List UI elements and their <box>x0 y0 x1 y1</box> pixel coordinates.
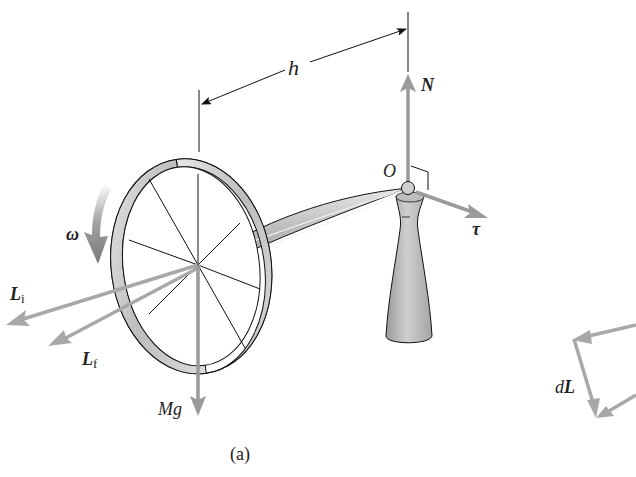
dimension-h-label: h <box>288 57 299 79</box>
l-symbol: L <box>82 349 93 369</box>
torque-vector <box>416 192 488 218</box>
pivot-o-label: O <box>383 162 396 180</box>
figure-caption: (a) <box>230 445 250 463</box>
normal-force-vector <box>400 74 416 182</box>
dl-label: dL <box>555 378 575 396</box>
pivot-point-o <box>402 182 415 195</box>
weight-label: Mg <box>158 400 182 418</box>
l-symbol: L <box>564 377 575 397</box>
mass-symbol: Mg <box>158 399 182 419</box>
l-subscript-i: i <box>21 291 25 306</box>
dl-vector-diagram <box>572 325 636 418</box>
d-symbol: d <box>555 377 564 397</box>
gyroscope-diagram <box>0 0 636 477</box>
omega-label: ω <box>66 225 79 243</box>
omega-rotation-arrow <box>84 183 112 264</box>
pivot-stand <box>386 192 432 343</box>
dimension-h <box>199 12 408 152</box>
torque-label: τ <box>472 220 480 238</box>
final-angular-momentum-label: Lf <box>82 350 97 370</box>
l-symbol: L <box>10 284 21 304</box>
initial-angular-momentum-label: Li <box>10 285 25 305</box>
normal-force-label: N <box>421 76 434 94</box>
l-subscript-f: f <box>93 356 97 371</box>
